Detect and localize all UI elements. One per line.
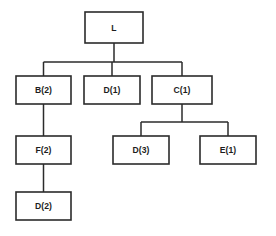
tree-diagram: L B(2) D(1) C(1) F(2) D(3) <box>0 0 276 236</box>
node-f2[interactable]: F(2) <box>16 136 71 164</box>
edge-group <box>44 43 229 192</box>
node-d3-label: D(3) <box>132 145 149 155</box>
node-group: L B(2) D(1) C(1) F(2) D(3) <box>16 12 256 220</box>
node-e1-label: E(1) <box>220 145 237 155</box>
node-d3[interactable]: D(3) <box>113 136 169 164</box>
node-d2[interactable]: D(2) <box>16 192 71 220</box>
node-c1[interactable]: C(1) <box>152 76 212 104</box>
node-root[interactable]: L <box>85 12 143 43</box>
node-b2-label: B(2) <box>35 85 52 95</box>
node-d1-label: D(1) <box>103 85 120 95</box>
node-d1[interactable]: D(1) <box>84 76 140 104</box>
node-e1[interactable]: E(1) <box>200 136 256 164</box>
node-b2[interactable]: B(2) <box>16 76 71 104</box>
node-c1-label: C(1) <box>173 85 190 95</box>
node-root-label: L <box>111 23 116 33</box>
node-d2-label: D(2) <box>35 201 52 211</box>
diagram-canvas: L B(2) D(1) C(1) F(2) D(3) <box>0 0 276 236</box>
node-f2-label: F(2) <box>35 145 51 155</box>
